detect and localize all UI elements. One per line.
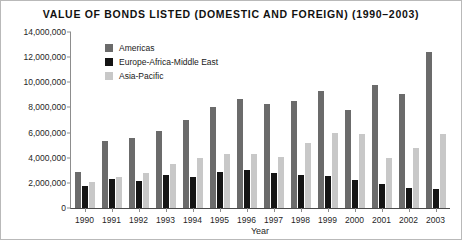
bar-europe-africa-middle-east-2002[interactable] — [406, 188, 412, 208]
x-axis-tick-label: 2003 — [426, 215, 445, 225]
bar-group: 1999 — [314, 32, 341, 208]
x-axis-tick-label: 1990 — [75, 215, 94, 225]
y-axis-tick-label: 4,000,000 — [28, 153, 66, 163]
x-axis-tick-mark — [166, 208, 167, 212]
bar-americas-2000[interactable] — [345, 110, 351, 208]
bar-europe-africa-middle-east-1994[interactable] — [190, 177, 196, 208]
bar-americas-1998[interactable] — [291, 101, 297, 208]
bar-asia-pacific-2003[interactable] — [440, 134, 446, 208]
bar-group: 1997 — [260, 32, 287, 208]
x-axis-tick-label: 1993 — [156, 215, 175, 225]
bar-americas-2001[interactable] — [372, 85, 378, 208]
bar-asia-pacific-1993[interactable] — [170, 164, 176, 208]
bar-europe-africa-middle-east-2001[interactable] — [379, 184, 385, 208]
y-axis-tick-label: 6,000,000 — [28, 128, 66, 138]
x-axis-tick-mark — [436, 208, 437, 212]
chart-legend: AmericasEurope-Africa-Middle EastAsia-Pa… — [105, 42, 218, 84]
bar-americas-1991[interactable] — [102, 141, 108, 208]
x-axis-tick-mark — [409, 208, 410, 212]
legend-swatch-icon — [105, 72, 113, 80]
bar-group: 2001 — [368, 32, 395, 208]
x-axis-tick-mark — [301, 208, 302, 212]
legend-label: Europe-Africa-Middle East — [119, 57, 218, 67]
bar-asia-pacific-1992[interactable] — [143, 173, 149, 208]
bar-group: 1990 — [71, 32, 98, 208]
bar-group: 2003 — [422, 32, 449, 208]
legend-item[interactable]: Europe-Africa-Middle East — [105, 56, 218, 68]
bar-europe-africa-middle-east-1991[interactable] — [109, 179, 115, 208]
x-axis-label: Year — [71, 226, 449, 236]
bar-europe-africa-middle-east-2003[interactable] — [433, 189, 439, 208]
legend-label: Americas — [119, 43, 154, 53]
x-axis-tick-mark — [382, 208, 383, 212]
x-axis-tick-label: 1996 — [237, 215, 256, 225]
y-axis-tick-label: 10,000,000 — [23, 77, 66, 87]
bar-americas-2002[interactable] — [399, 94, 405, 208]
bar-asia-pacific-1994[interactable] — [197, 158, 203, 208]
chart-figure: VALUE OF BONDS LISTED (DOMESTIC AND FORE… — [0, 0, 462, 240]
bar-group: 2002 — [395, 32, 422, 208]
legend-item[interactable]: Americas — [105, 42, 218, 54]
x-axis-tick-mark — [139, 208, 140, 212]
bar-europe-africa-middle-east-1996[interactable] — [244, 170, 250, 208]
x-axis-tick-mark — [85, 208, 86, 212]
x-axis-tick-label: 2002 — [399, 215, 418, 225]
y-axis-tick-label: 2,000,000 — [28, 178, 66, 188]
bar-americas-2003[interactable] — [426, 52, 432, 208]
bar-asia-pacific-1991[interactable] — [116, 177, 122, 208]
bar-europe-africa-middle-east-1992[interactable] — [136, 181, 142, 208]
bar-europe-africa-middle-east-1995[interactable] — [217, 172, 223, 208]
legend-label: Asia-Pacific — [119, 71, 163, 81]
x-axis-tick-label: 1997 — [264, 215, 283, 225]
bar-asia-pacific-1996[interactable] — [251, 154, 257, 208]
x-axis-tick-mark — [355, 208, 356, 212]
x-axis-tick-mark — [247, 208, 248, 212]
bar-europe-africa-middle-east-1998[interactable] — [298, 175, 304, 208]
bar-asia-pacific-2000[interactable] — [359, 134, 365, 208]
bar-americas-1993[interactable] — [156, 131, 162, 208]
legend-item[interactable]: Asia-Pacific — [105, 70, 218, 82]
y-axis-tick-label: 8,000,000 — [28, 102, 66, 112]
x-axis-tick-label: 1991 — [102, 215, 121, 225]
x-axis-line — [70, 208, 450, 209]
y-axis-tick-label: 0 — [61, 203, 66, 213]
bar-americas-1995[interactable] — [210, 107, 216, 208]
bar-americas-1996[interactable] — [237, 99, 243, 208]
x-axis-tick-label: 1992 — [129, 215, 148, 225]
bar-asia-pacific-2001[interactable] — [386, 158, 392, 208]
x-axis-tick-label: 1998 — [291, 215, 310, 225]
bar-asia-pacific-1998[interactable] — [305, 143, 311, 208]
bar-asia-pacific-1990[interactable] — [89, 182, 95, 208]
bar-europe-africa-middle-east-2000[interactable] — [352, 180, 358, 208]
bar-europe-africa-middle-east-1997[interactable] — [271, 173, 277, 208]
bar-europe-africa-middle-east-1990[interactable] — [82, 186, 88, 208]
bar-asia-pacific-1999[interactable] — [332, 133, 338, 208]
bar-group: 2000 — [341, 32, 368, 208]
x-axis-tick-label: 1994 — [183, 215, 202, 225]
bar-europe-africa-middle-east-1999[interactable] — [325, 176, 331, 208]
x-axis-tick-mark — [112, 208, 113, 212]
x-axis-tick-label: 2001 — [372, 215, 391, 225]
x-axis-tick-mark — [220, 208, 221, 212]
bar-americas-1990[interactable] — [75, 172, 81, 208]
legend-swatch-icon — [105, 58, 113, 66]
y-axis-tick-label: 12,000,000 — [23, 52, 66, 62]
bar-group: 1998 — [287, 32, 314, 208]
bar-asia-pacific-1997[interactable] — [278, 157, 284, 208]
bar-asia-pacific-2002[interactable] — [413, 148, 419, 208]
x-axis-tick-mark — [328, 208, 329, 212]
x-axis-tick-mark — [193, 208, 194, 212]
bar-americas-1997[interactable] — [264, 104, 270, 208]
bar-americas-1992[interactable] — [129, 138, 135, 208]
bar-americas-1994[interactable] — [183, 120, 189, 208]
bar-group: 1996 — [233, 32, 260, 208]
x-axis-tick-mark — [274, 208, 275, 212]
x-axis-tick-label: 2000 — [345, 215, 364, 225]
bar-americas-1999[interactable] — [318, 91, 324, 208]
bar-europe-africa-middle-east-1993[interactable] — [163, 175, 169, 208]
x-axis-tick-label: 1999 — [318, 215, 337, 225]
chart-title: VALUE OF BONDS LISTED (DOMESTIC AND FORE… — [1, 8, 461, 20]
bar-asia-pacific-1995[interactable] — [224, 154, 230, 208]
y-axis-tick-label: 14,000,000 — [23, 27, 66, 37]
x-axis-tick-label: 1995 — [210, 215, 229, 225]
